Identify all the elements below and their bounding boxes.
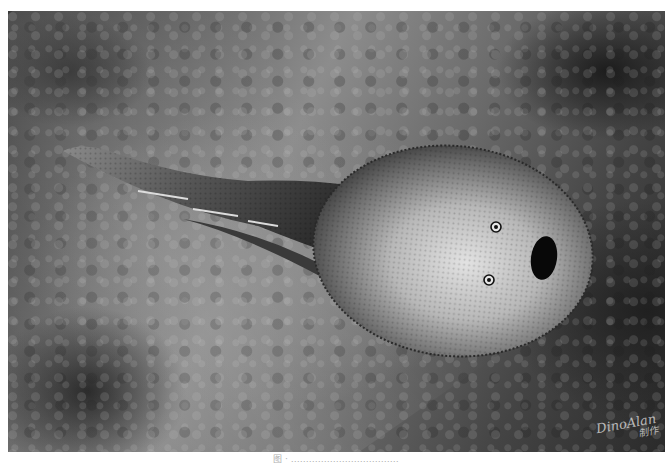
tail-fin bbox=[63, 146, 353, 286]
eye-upper bbox=[491, 222, 501, 232]
eye-lower bbox=[484, 275, 494, 285]
head-shield bbox=[303, 132, 603, 370]
figure-caption: 图 · ……………………………… bbox=[0, 453, 672, 465]
fish-illustration bbox=[8, 11, 665, 452]
illustration-figure: DinoAlan 制作 bbox=[8, 11, 665, 452]
